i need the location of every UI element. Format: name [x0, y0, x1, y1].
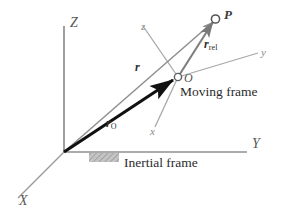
point-marker-O — [174, 73, 181, 80]
axis-line-X — [18, 152, 64, 198]
axis-label-X: X — [19, 194, 28, 208]
moving-frame-label: Moving frame — [180, 85, 258, 99]
axis-label-z-moving: z — [141, 21, 145, 32]
inertial-frame-label: Inertial frame — [124, 156, 198, 170]
reference-frame-diagram: Z Y X z y x P O r rO rrel Moving frame I… — [0, 0, 281, 217]
vector-label-r: r — [135, 61, 140, 73]
vector-label-r-rel-subscript: rel — [209, 43, 218, 52]
vector-r-O — [64, 80, 173, 152]
point-label-O: O — [184, 72, 193, 84]
axis-label-Y: Y — [252, 137, 260, 151]
axis-label-y-moving: y — [261, 47, 266, 58]
axis-line-z-moving — [143, 26, 178, 77]
vector-label-r-O: rO — [106, 117, 117, 131]
vector-label-r-O-subscript: O — [111, 122, 117, 131]
ground-support-block — [89, 153, 119, 162]
diagram-canvas — [0, 0, 281, 217]
axis-label-x-moving: x — [150, 126, 155, 137]
point-label-P: P — [224, 8, 232, 21]
point-marker-P — [211, 15, 219, 23]
vector-label-r-symbol: r — [135, 60, 140, 74]
axis-label-Z: Z — [70, 16, 78, 30]
vector-label-r-rel: rrel — [204, 38, 218, 52]
